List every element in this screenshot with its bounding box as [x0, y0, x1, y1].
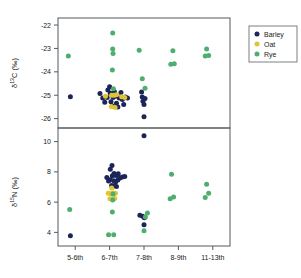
y-tick-label: 6 — [47, 199, 51, 206]
y-tick-label: 8 — [47, 168, 51, 175]
datapoint-rye — [206, 53, 211, 58]
x-tick-label-11-13th: 11-13th — [201, 254, 224, 261]
datapoint-rye — [110, 30, 115, 35]
datapoint-rye — [111, 86, 116, 91]
legend-label-rye: Rye — [264, 51, 277, 59]
datapoint-rye — [140, 76, 145, 81]
datapoint-barley — [68, 233, 73, 238]
datapoint-rye — [171, 194, 176, 199]
datapoint-rye — [204, 182, 209, 187]
datapoint-rye — [106, 232, 111, 237]
datapoint-oat — [103, 94, 108, 99]
datapoint-rye — [110, 210, 115, 215]
datapoint-rye — [111, 232, 116, 237]
datapoint-rye — [203, 195, 208, 200]
datapoint-barley — [121, 102, 126, 107]
legend-marker-rye — [255, 52, 260, 57]
datapoint-rye — [172, 61, 177, 66]
x-tick-label-7-8th: 7-8th — [136, 254, 152, 261]
y-tick-label: 10 — [43, 138, 51, 145]
datapoint-rye — [204, 46, 209, 51]
datapoint-rye — [110, 67, 115, 72]
y-tick-label: -26 — [41, 115, 51, 122]
legend-marker-barley — [255, 32, 260, 37]
datapoint-barley — [114, 184, 119, 189]
datapoint-oat — [113, 105, 118, 110]
datapoint-barley — [142, 222, 147, 227]
datapoint-rye — [66, 53, 71, 58]
legend-label-oat: Oat — [264, 41, 275, 48]
datapoint-rye — [110, 198, 115, 203]
datapoint-barley — [142, 102, 147, 107]
datapoint-barley — [97, 91, 102, 96]
datapoint-rye — [169, 172, 174, 177]
x-tick-label-8-9th: 8-9th — [170, 254, 186, 261]
legend-label-barley: Barley — [264, 31, 284, 39]
datapoint-barley — [142, 114, 147, 119]
datapoint-rye — [143, 214, 148, 219]
datapoint-rye — [111, 191, 116, 196]
datapoint-rye — [206, 191, 211, 196]
stable-isotope-scatter-figure: -22-23-24-25-26 10864 δ13C (‰) δ15N (‰) … — [0, 0, 301, 278]
datapoint-rye — [142, 228, 147, 233]
x-tick-label-6-7th: 6-7th — [102, 254, 118, 261]
datapoint-oat — [109, 185, 114, 190]
y-tick-label: -24 — [41, 68, 51, 75]
y-tick-label: -22 — [41, 22, 51, 29]
datapoint-barley — [122, 174, 127, 179]
datapoint-barley — [143, 96, 148, 101]
datapoint-barley — [139, 89, 144, 94]
x-tick-label-5-6th: 5-6th — [67, 254, 83, 261]
datapoint-rye — [170, 48, 175, 53]
datapoint-barley — [108, 167, 113, 172]
datapoint-oat — [114, 92, 119, 97]
datapoint-rye — [67, 207, 72, 212]
y-tick-label: 4 — [47, 229, 51, 236]
datapoint-barley — [142, 133, 147, 138]
y-tick-label: -23 — [41, 45, 51, 52]
legend: BarleyOatRye — [249, 26, 297, 62]
y-tick-label: -25 — [41, 92, 51, 99]
datapoint-rye — [111, 51, 116, 56]
datapoint-rye — [137, 48, 142, 53]
datapoint-rye — [110, 46, 115, 51]
datapoint-oat — [122, 95, 127, 100]
datapoint-barley — [102, 100, 107, 105]
datapoint-barley — [68, 94, 73, 99]
datapoint-rye — [143, 86, 148, 91]
legend-marker-oat — [255, 42, 260, 47]
datapoint-barley — [118, 90, 123, 95]
